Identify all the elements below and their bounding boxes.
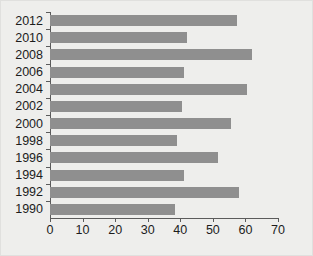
bar [50, 118, 231, 129]
bar-row: 2010 [50, 29, 278, 46]
x-axis-tick [83, 218, 84, 222]
y-axis-tick [46, 167, 50, 168]
x-axis-tick-label: 10 [76, 224, 90, 237]
x-axis-tick-label: 70 [271, 224, 285, 237]
y-axis-tick-label: 2006 [15, 66, 43, 79]
x-axis-tick-label: 30 [141, 224, 155, 237]
y-axis-tick-label: 2000 [15, 117, 43, 130]
bar [50, 101, 182, 112]
y-axis-tick [46, 115, 50, 116]
bar [50, 32, 187, 43]
bar-row: 1998 [50, 132, 278, 149]
y-axis-tick-label: 2002 [15, 100, 43, 113]
bar-row: 2008 [50, 46, 278, 63]
x-axis-tick [278, 218, 279, 222]
x-axis-tick [180, 218, 181, 222]
y-axis-tick-label: 1990 [15, 203, 43, 216]
y-axis-tick [46, 132, 50, 133]
x-axis-tick-label: 50 [206, 224, 220, 237]
bar [50, 204, 175, 215]
y-axis-tick [46, 201, 50, 202]
bar-row: 2000 [50, 115, 278, 132]
x-axis-tick-label: 60 [238, 224, 252, 237]
x-axis-tick [50, 218, 51, 222]
x-axis-tick-label: 20 [108, 224, 122, 237]
bar [50, 84, 247, 95]
y-axis-tick-label: 2012 [15, 14, 43, 27]
bar-chart-figure: 2012201020082006200420022000199819961994… [0, 0, 313, 256]
bar [50, 152, 218, 163]
x-axis-tick [115, 218, 116, 222]
bar [50, 135, 177, 146]
bar-row: 2002 [50, 98, 278, 115]
y-axis-tick [46, 149, 50, 150]
bar-row: 1996 [50, 149, 278, 166]
y-axis-tick-label: 1998 [15, 134, 43, 147]
bar [50, 15, 237, 26]
x-axis-tick-label: 0 [47, 224, 54, 237]
bar [50, 187, 239, 198]
y-axis-tick [46, 12, 50, 13]
bar-row: 2012 [50, 12, 278, 29]
x-axis-tick-label: 40 [173, 224, 187, 237]
y-axis-tick [46, 29, 50, 30]
bar [50, 49, 252, 60]
y-axis-tick-label: 2004 [15, 83, 43, 96]
y-axis-tick-label: 1994 [15, 169, 43, 182]
bar-row: 2006 [50, 64, 278, 81]
y-axis-tick-label: 2010 [15, 31, 43, 44]
plot-area: 2012201020082006200420022000199819961994… [50, 12, 278, 218]
y-axis-tick-label: 2008 [15, 49, 43, 62]
y-axis-tick-label: 1992 [15, 186, 43, 199]
x-axis-tick [148, 218, 149, 222]
y-axis-tick-label: 1996 [15, 152, 43, 165]
y-axis-tick [46, 46, 50, 47]
bar [50, 67, 184, 78]
bar-row: 1990 [50, 201, 278, 218]
bar-row: 1994 [50, 167, 278, 184]
x-axis-tick [213, 218, 214, 222]
bar [50, 170, 184, 181]
bar-row: 1992 [50, 184, 278, 201]
y-axis-tick [46, 98, 50, 99]
y-axis-tick [46, 64, 50, 65]
y-axis-tick [46, 81, 50, 82]
x-axis-tick [245, 218, 246, 222]
bar-row: 2004 [50, 81, 278, 98]
y-axis-tick [46, 184, 50, 185]
